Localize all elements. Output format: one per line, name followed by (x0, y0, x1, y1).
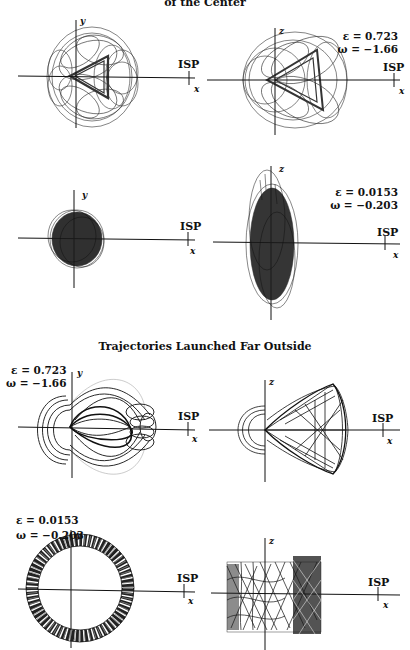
x-axis-label: x (387, 436, 392, 446)
trajectory-plot (205, 500, 410, 650)
middle-title: Trajectories Launched Far Outside (0, 340, 410, 353)
epsilon-value: ε = 0.723 (6, 364, 66, 377)
parameter-label: ε = 0.0153 ω = −0.203 (330, 186, 398, 212)
isp-label: ISP (180, 220, 201, 233)
x-axis-label: x (383, 600, 388, 610)
isp-label: ISP (178, 58, 199, 71)
trajectory-plot (0, 0, 205, 150)
panel-outside-large-eps-xy: ε = 0.723 ω = −1.66 y ISP x (0, 360, 205, 500)
x-axis-label: x (188, 596, 193, 606)
y-axis-label: y (76, 530, 81, 540)
panel-center-small-eps-xy: y ISP x (0, 160, 205, 320)
panel-outside-small-eps-xz: z ISP x (205, 500, 410, 650)
panel-center-large-eps-xy: y ISP x (0, 0, 205, 150)
y-axis-label: y (82, 190, 87, 200)
omega-value: ω = −1.66 (338, 43, 398, 56)
x-axis-label: x (194, 84, 199, 94)
x-axis-label: x (393, 250, 398, 260)
isp-label: ISP (178, 410, 199, 423)
y-axis-label: y (80, 16, 85, 26)
trajectory-plot (0, 160, 205, 320)
x-axis-label: x (399, 86, 404, 96)
epsilon-value: ε = 0.0153 (330, 186, 398, 199)
z-axis-label: z (279, 164, 284, 174)
trajectory-plot (205, 160, 410, 320)
x-axis-label: x (192, 434, 197, 444)
omega-value: ω = −0.203 (330, 199, 398, 212)
isp-label: ISP (383, 61, 404, 74)
z-axis-label: z (269, 536, 274, 546)
isp-label: ISP (377, 226, 398, 239)
y-axis-label: y (77, 368, 82, 378)
panel-outside-large-eps-xz: z ISP x (205, 360, 410, 500)
epsilon-value: ε = 0.0153 (16, 514, 84, 527)
panel-outside-small-eps-xy: ε = 0.0153 ω = −0.203 y ISP x (0, 500, 205, 650)
parameter-label: ε = 0.723 ω = −1.66 (338, 30, 398, 56)
x-axis-label: x (190, 246, 195, 256)
panel-center-small-eps-xz: z ε = 0.0153 ω = −0.203 ISP x (205, 160, 410, 320)
panel-center-large-eps-xz: z ε = 0.723 ω = −1.66 ISP x (205, 0, 410, 150)
omega-value: ω = −1.66 (6, 377, 66, 390)
isp-label: ISP (177, 572, 198, 585)
parameter-label: ε = 0.723 ω = −1.66 (6, 364, 66, 390)
isp-label: ISP (372, 412, 393, 425)
omega-value: ω = −0.203 (16, 529, 84, 542)
isp-label: ISP (368, 576, 389, 589)
trajectory-plot (205, 360, 410, 500)
parameter-label: ε = 0.0153 ω = −0.203 (16, 514, 84, 542)
z-axis-label: z (279, 26, 284, 36)
trajectory-plot (205, 0, 410, 150)
epsilon-value: ε = 0.723 (338, 30, 398, 43)
z-axis-label: z (269, 377, 274, 387)
